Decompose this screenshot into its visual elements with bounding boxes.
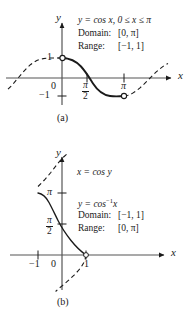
- panel-a-origin-label: 0: [51, 81, 56, 91]
- panel-b-inverse-equation-variable: x: [113, 199, 117, 209]
- panel-a-range-value: [−1, 1]: [118, 42, 144, 52]
- figure-container: y x y = cos x, 0 ≤ x ≤ π Domain: [0, π] …: [0, 0, 190, 317]
- panel-a-curve-dashed-right: [124, 63, 168, 96]
- panel-b-inverse-equation-main: y = cos: [78, 199, 106, 209]
- panel-b-x-axis-label: x: [171, 247, 176, 258]
- panel-b-xtick-label-neg1: −1: [29, 259, 40, 269]
- panel-b-endpoint-marker: [84, 253, 89, 258]
- panel-a-domain-label: Domain:: [78, 29, 111, 39]
- panel-b-range-label: Range:: [78, 224, 105, 234]
- panel-a-x-axis-label: x: [178, 70, 183, 81]
- panel-a-domain-value: [0, π]: [118, 29, 139, 39]
- panel-a-endpoint-marker-left: [60, 55, 65, 60]
- panel-b-inverse-equation-exponent: −1: [106, 197, 113, 204]
- panel-b-domain-value: [−1, 1]: [118, 211, 144, 221]
- panel-a-half-pi-denominator: 2: [82, 92, 89, 102]
- panel-b-curve-dashed-lower: [56, 255, 86, 292]
- panel-b-domain-label: Domain:: [78, 211, 111, 221]
- panel-a-range-label: Range:: [78, 42, 105, 52]
- panel-b-inverse-equation: y = cos−1x: [78, 198, 117, 210]
- panel-b-xtick-label-1: 1: [84, 259, 89, 269]
- panel-b-origin-label: 0: [51, 259, 56, 269]
- panel-a-endpoint-marker-right: [121, 93, 126, 98]
- panel-a-ytick-label-neg1: −1: [39, 90, 50, 100]
- panel-a-xtick-label-pi: π: [121, 81, 126, 91]
- panel-a-label: (a): [57, 113, 68, 123]
- panel-a-equation: y = cos x, 0 ≤ x ≤ π: [78, 16, 151, 26]
- panel-b-label: (b): [57, 297, 69, 307]
- panel-a-ytick-label-1: 1: [47, 52, 52, 62]
- panel-a-curve-solid: [62, 58, 124, 96]
- panel-b-range-value: [0, π]: [118, 224, 139, 234]
- panel-b-curve-dashed-upper: [38, 154, 67, 187]
- panel-b-ytick-label-half-pi: π 2: [46, 216, 53, 236]
- panel-b-y-axis-label: y: [56, 147, 61, 158]
- panel-a-xtick-label-half-pi: π 2: [82, 81, 89, 101]
- panel-b-ytick-label-pi: π: [47, 187, 52, 197]
- panel-a-y-axis-label: y: [56, 12, 61, 23]
- panel-b-half-pi-denominator: 2: [46, 227, 53, 237]
- panel-b-equation: x = cos y: [77, 168, 112, 178]
